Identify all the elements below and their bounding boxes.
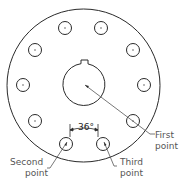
third-point-label-line2: point	[120, 168, 143, 178]
hole-center-marks	[22, 27, 145, 122]
leader-arrowheads	[65, 85, 107, 146]
center-bore-with-keyway	[63, 60, 105, 105]
first-point-label-line2: point	[155, 141, 178, 151]
third-point-label-line1: Third	[119, 157, 143, 167]
angle-label: 36°	[78, 122, 94, 132]
first-point-label-line1: First	[155, 130, 174, 140]
bolt-circle-diagram: 36° First point Second point Third point	[0, 0, 187, 184]
second-point-label-line2: point	[25, 168, 48, 178]
second-point-label-line1: Second	[10, 157, 43, 167]
leader-lines	[47, 85, 155, 168]
